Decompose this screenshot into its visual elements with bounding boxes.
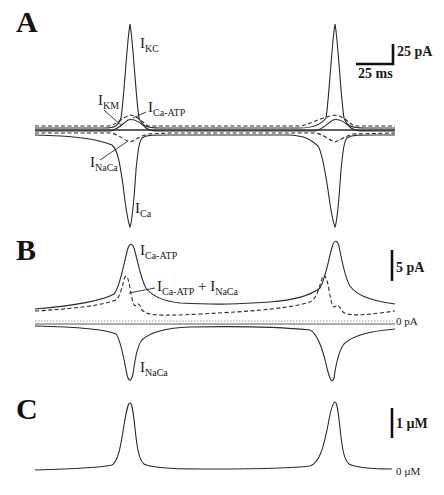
figure-canvas: A IKC IKM ICa-ATP INaCa ICa 25 pA 25 ms … (0, 0, 444, 495)
trace-ica (35, 135, 395, 227)
label-b-icaatp: ICa-ATP (140, 242, 178, 261)
leader-ikm (104, 110, 122, 126)
panel-a: A IKC IKM ICa-ATP INaCa ICa 25 pA 25 ms (16, 5, 433, 227)
label-b-inaca: INaCa (140, 359, 168, 378)
scale-bar-a (356, 44, 393, 64)
label-ikm: IKM (98, 92, 119, 111)
scale-label-c: 1 µM (396, 416, 428, 431)
scale-label-b: 5 pA (396, 260, 425, 275)
trace-c-calcium (35, 402, 392, 470)
panel-letter-a: A (16, 5, 38, 38)
panel-letter-c: C (16, 392, 38, 425)
trace-b-icaatp (35, 241, 395, 309)
panel-letter-b: B (16, 233, 36, 266)
trace-b-inaca (35, 326, 395, 381)
leader-b-sum (129, 288, 155, 293)
label-ikc: IKC (140, 35, 159, 54)
trace-inaca (35, 133, 395, 142)
label-ica: ICa (135, 200, 152, 219)
panel-c: C 1 µM 0 µM (16, 392, 428, 477)
leader-inaca (100, 141, 128, 160)
label-icaatp: ICa-ATP (148, 99, 186, 118)
leader-icaatp (133, 112, 146, 118)
panel-b: B ICa-ATP ICa-ATP + INaCa INaCa 5 pA 0 p… (16, 233, 425, 381)
trace-ikc (35, 24, 395, 128)
zero-label-c: 0 µM (396, 465, 421, 477)
label-b-sum: ICa-ATP + INaCa (157, 278, 239, 297)
zero-label-b: 0 pA (396, 315, 418, 327)
scale-label-a-horizontal: 25 ms (358, 66, 393, 81)
scale-label-a-vertical: 25 pA (397, 44, 433, 59)
